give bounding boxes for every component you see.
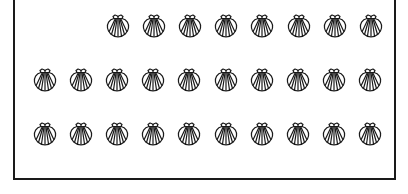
scallop-shell-icon [321, 121, 347, 147]
scallop-shell-icon [285, 67, 311, 93]
scallop-shell-icon [68, 121, 94, 147]
scallop-shell-icon [32, 121, 58, 147]
scallop-shell-icon [140, 121, 166, 147]
scallop-shell-icon [213, 121, 239, 147]
scallop-shell-icon [68, 67, 94, 93]
scallop-shell-icon [321, 67, 347, 93]
scallop-shell-icon [213, 67, 239, 93]
scallop-shell-icon [249, 121, 275, 147]
scallop-shell-icon [249, 67, 275, 93]
scallop-shell-icon [213, 13, 239, 39]
scallop-shell-icon [358, 13, 384, 39]
scallop-shell-icon [285, 121, 311, 147]
scallop-shell-icon [357, 67, 383, 93]
scallop-shell-icon [177, 13, 203, 39]
scallop-shell-icon [104, 121, 130, 147]
scallop-shell-icon [105, 13, 131, 39]
scallop-shell-icon [357, 121, 383, 147]
scallop-shell-icon [104, 67, 130, 93]
scallop-shell-icon [176, 67, 202, 93]
scallop-shell-icon [140, 67, 166, 93]
scallop-shell-icon [249, 13, 275, 39]
scallop-shell-icon [322, 13, 348, 39]
scallop-shell-icon [176, 121, 202, 147]
scallop-shell-icon [286, 13, 312, 39]
scallop-shell-icon [32, 67, 58, 93]
scallop-shell-icon [141, 13, 167, 39]
